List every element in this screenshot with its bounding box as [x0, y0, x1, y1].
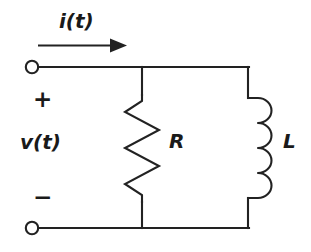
current-arrow [38, 39, 127, 53]
top-terminal-node [26, 61, 38, 73]
polarity-plus-label: + [33, 88, 52, 111]
circuit-schematic-svg [0, 0, 311, 252]
resistor-zigzag-body [125, 95, 159, 202]
current-arrow-head [110, 39, 127, 53]
circuit-diagram: i(t) v(t) R L + − [0, 0, 311, 252]
inductor-label: L [283, 131, 296, 151]
resistor-label: R [169, 131, 184, 151]
inductor-coil-body [248, 98, 272, 198]
voltage-label: v(t) [20, 132, 61, 152]
bottom-terminal-node [26, 222, 38, 234]
polarity-minus-label: − [33, 186, 52, 209]
current-label: i(t) [59, 11, 94, 31]
